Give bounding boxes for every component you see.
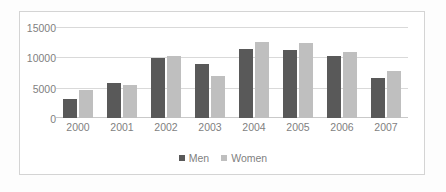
bar-men-2007[interactable] bbox=[371, 78, 385, 118]
bar-groups bbox=[56, 27, 408, 118]
bar-women-2000[interactable] bbox=[79, 90, 93, 119]
legend-entry-women[interactable]: Women bbox=[221, 153, 267, 164]
bar-men-2000[interactable] bbox=[63, 99, 77, 118]
bar-men-2003[interactable] bbox=[195, 64, 209, 118]
x-tick-label-2005: 2005 bbox=[276, 122, 320, 133]
bar-women-2005[interactable] bbox=[299, 43, 313, 118]
x-tick-label-2003: 2003 bbox=[188, 122, 232, 133]
bar-men-2006[interactable] bbox=[327, 56, 341, 118]
bar-group-2001 bbox=[100, 27, 144, 118]
bar-men-2004[interactable] bbox=[239, 49, 253, 118]
bar-group-2005 bbox=[276, 27, 320, 118]
legend-swatch-men-icon bbox=[179, 155, 185, 161]
bar-men-2002[interactable] bbox=[151, 58, 165, 118]
bar-women-2001[interactable] bbox=[123, 85, 137, 118]
x-tick-label-2006: 2006 bbox=[320, 122, 364, 133]
x-tick-label-2000: 2000 bbox=[56, 122, 100, 133]
bar-group-2004 bbox=[232, 27, 276, 118]
x-tick-label-2001: 2001 bbox=[100, 122, 144, 133]
bar-women-2002[interactable] bbox=[167, 56, 181, 118]
legend-swatch-women-icon bbox=[221, 155, 227, 161]
bar-men-2005[interactable] bbox=[283, 50, 297, 118]
bar-men-2001[interactable] bbox=[107, 83, 121, 118]
bar-chart: 15000 10000 5000 0 bbox=[0, 0, 446, 192]
bar-group-2002 bbox=[144, 27, 188, 118]
x-tick-label-2002: 2002 bbox=[144, 122, 188, 133]
x-tick-label-2004: 2004 bbox=[232, 122, 276, 133]
legend-label-women: Women bbox=[231, 153, 267, 164]
bar-women-2003[interactable] bbox=[211, 76, 225, 118]
bar-women-2007[interactable] bbox=[387, 71, 401, 118]
bar-group-2000 bbox=[56, 27, 100, 118]
x-tick-label-2007: 2007 bbox=[364, 122, 408, 133]
x-axis-labels: 2000 2001 2002 2003 2004 2005 2006 2007 bbox=[56, 122, 408, 133]
bar-women-2006[interactable] bbox=[343, 52, 357, 118]
bar-women-2004[interactable] bbox=[255, 42, 269, 118]
bar-group-2006 bbox=[320, 27, 364, 118]
legend-label-men: Men bbox=[189, 153, 209, 164]
legend-entry-men[interactable]: Men bbox=[179, 153, 209, 164]
chart-legend: Men Women bbox=[0, 153, 446, 164]
bar-group-2007 bbox=[364, 27, 408, 118]
bar-group-2003 bbox=[188, 27, 232, 118]
